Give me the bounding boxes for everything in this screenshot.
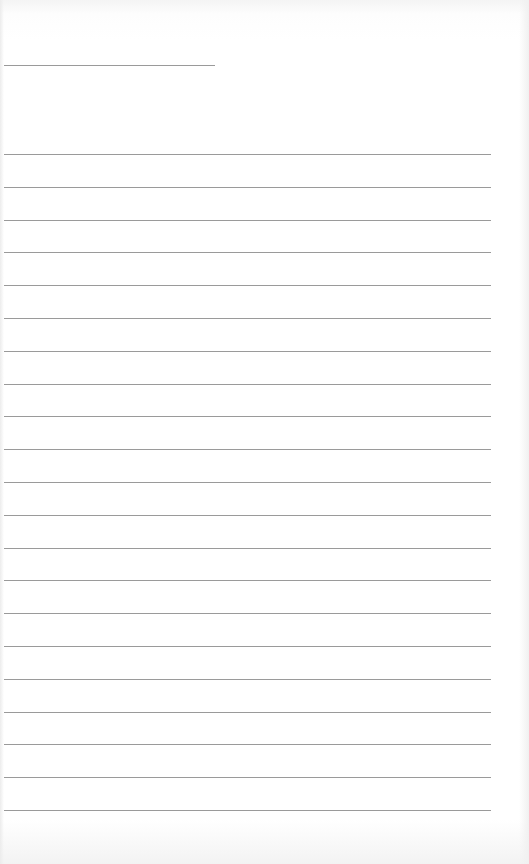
ruled-line <box>4 449 491 450</box>
ruled-line <box>4 285 491 286</box>
header-rule <box>4 65 215 66</box>
ruled-line <box>4 351 491 352</box>
ruled-line <box>4 154 491 155</box>
ruled-line <box>4 318 491 319</box>
ruled-line <box>4 646 491 647</box>
ruled-line <box>4 580 491 581</box>
ruled-line <box>4 777 491 778</box>
lined-paper-page <box>0 0 529 864</box>
ruled-line <box>4 810 491 811</box>
ruled-line <box>4 712 491 713</box>
page-left-edge-shadow <box>0 0 4 864</box>
ruled-line <box>4 482 491 483</box>
page-right-edge-shadow <box>519 0 529 864</box>
ruled-line <box>4 220 491 221</box>
ruled-line <box>4 613 491 614</box>
ruled-line <box>4 548 491 549</box>
ruled-line <box>4 187 491 188</box>
ruled-line <box>4 679 491 680</box>
ruled-line <box>4 252 491 253</box>
ruled-line <box>4 416 491 417</box>
ruled-line <box>4 744 491 745</box>
ruled-line <box>4 384 491 385</box>
ruled-line <box>4 515 491 516</box>
